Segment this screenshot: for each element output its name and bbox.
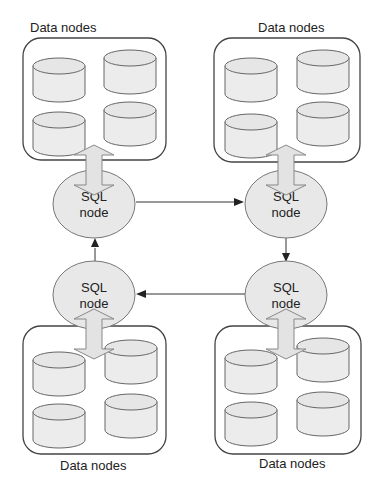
database-icon <box>225 350 277 394</box>
database-icon <box>33 352 85 396</box>
sql-node-label-line1: SQL <box>81 280 107 295</box>
database-icon <box>33 112 85 156</box>
cluster-top-right: Data nodes <box>214 20 360 162</box>
database-icon <box>225 402 277 446</box>
data-nodes-label: Data nodes <box>30 20 97 35</box>
database-icon <box>297 338 349 382</box>
database-icon <box>105 394 157 438</box>
database-icon <box>297 50 349 94</box>
arrowhead-icon <box>234 198 244 206</box>
replication-ring-diagram: Data nodes Data nodes Data nodes Data no… <box>0 0 379 489</box>
database-icon <box>104 102 156 146</box>
database-icon <box>104 50 156 94</box>
arrowhead-icon <box>91 238 99 247</box>
database-icon <box>225 58 277 102</box>
sql-node-label-line2: node <box>272 205 301 220</box>
database-icon <box>33 58 85 102</box>
cluster-top-left: Data nodes <box>23 20 166 160</box>
database-icon <box>297 102 349 146</box>
database-icon <box>33 404 85 448</box>
data-nodes-label: Data nodes <box>258 20 325 35</box>
bidirectional-arrow-icon <box>74 145 114 195</box>
data-nodes-label: Data nodes <box>60 458 127 473</box>
sql-node-label-line1: SQL <box>273 280 299 295</box>
data-nodes-label: Data nodes <box>259 456 326 471</box>
arrowhead-icon <box>136 290 146 298</box>
sql-node-label-line2: node <box>80 205 109 220</box>
database-icon <box>225 114 277 158</box>
bidirectional-arrow-icon <box>266 145 306 195</box>
database-icon <box>297 392 349 436</box>
database-icon <box>105 340 157 384</box>
